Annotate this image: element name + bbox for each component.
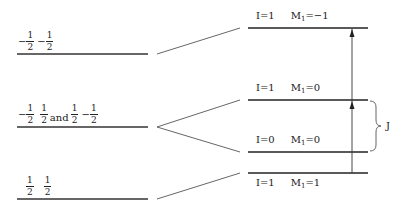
- right-label-1: I=1M1=−1: [256, 10, 329, 23]
- left-label-upper: −12 −12: [18, 31, 53, 52]
- right-label-2: I=1M1=0: [256, 82, 320, 95]
- coupling-constant-label: J: [386, 120, 390, 131]
- right-label-4: I=1M1=1: [256, 177, 320, 190]
- connector-middle-to-r2: [157, 100, 240, 127]
- right-label-3: I=0M1=0: [256, 134, 320, 147]
- arrowhead-up-icon: [350, 29, 355, 37]
- connector-middle-to-r3: [157, 127, 240, 152]
- left-label-middle: −1212and12 −12: [18, 104, 98, 125]
- left-label-lower: 1212: [26, 176, 51, 197]
- arrowhead-up-icon: [350, 101, 355, 109]
- connector-upper: [157, 28, 240, 54]
- curly-brace-icon: [370, 101, 381, 151]
- connector-lower: [157, 173, 240, 199]
